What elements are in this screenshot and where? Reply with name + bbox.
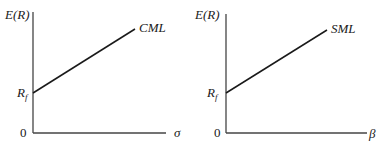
y-axis-label: E(R) [194, 7, 220, 22]
cml-label: CML [139, 20, 166, 35]
origin-label: 0 [214, 125, 221, 140]
risk-free-label: Rf [16, 85, 29, 102]
risk-free-label: Rf [206, 85, 219, 102]
x-axis-label-sigma: σ [174, 125, 181, 140]
sml-label: SML [331, 21, 356, 36]
cml-line [33, 29, 135, 93]
origin-label: 0 [20, 125, 27, 140]
sml-panel: E(R) 0 Rf SML β [194, 7, 376, 141]
x-axis-label-beta: β [368, 126, 376, 141]
cml-panel: E(R) 0 Rf CML σ [4, 7, 181, 140]
sml-line [226, 30, 327, 93]
capm-diagrams: E(R) 0 Rf CML σ E(R) 0 Rf SML β [0, 0, 377, 149]
y-axis-label: E(R) [4, 7, 30, 22]
